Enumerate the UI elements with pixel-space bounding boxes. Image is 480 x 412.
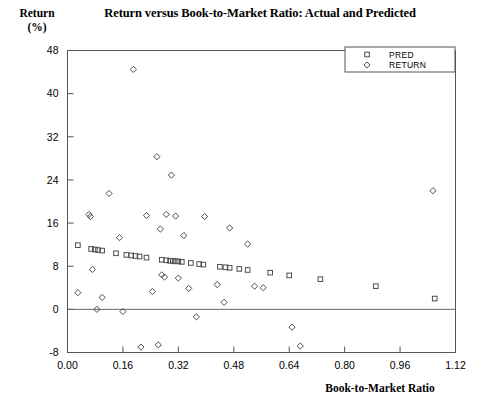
data-point — [287, 273, 292, 278]
data-point — [432, 296, 437, 301]
data-point — [172, 213, 178, 219]
y-tick-label: -8 — [49, 346, 58, 358]
x-tick-label: 0.48 — [224, 359, 245, 371]
data-point — [297, 343, 303, 349]
x-tick-label: 0.32 — [168, 359, 189, 371]
series-return — [75, 66, 436, 350]
data-point — [251, 283, 257, 289]
series-pred — [76, 243, 437, 301]
y-tick-label: 0 — [53, 303, 59, 315]
data-point — [163, 211, 169, 217]
chart-figure: Return versus Book-to-Market Ratio: Actu… — [0, 0, 480, 412]
data-point — [181, 232, 187, 238]
data-point — [175, 275, 181, 281]
data-point — [149, 288, 155, 294]
data-point — [221, 299, 227, 305]
data-point — [289, 324, 295, 330]
data-point — [227, 225, 233, 231]
x-tick-label: 0.64 — [279, 359, 300, 371]
data-point — [202, 214, 208, 220]
data-point — [89, 266, 95, 272]
data-point — [75, 290, 81, 296]
data-point — [130, 66, 136, 72]
data-point — [189, 261, 194, 266]
x-tick-label: 0.16 — [113, 359, 134, 371]
data-point — [76, 243, 81, 248]
data-point — [106, 190, 112, 196]
data-point — [268, 270, 273, 275]
data-point — [245, 268, 250, 273]
plot-frame — [68, 51, 456, 353]
data-point — [245, 241, 251, 247]
data-point — [193, 314, 199, 320]
x-tick-label: 0.96 — [390, 359, 411, 371]
y-tick-label: 40 — [47, 87, 59, 99]
data-point — [157, 226, 163, 232]
x-tick-label: 0.00 — [57, 359, 78, 371]
y-tick-label: 32 — [47, 131, 59, 143]
data-point — [374, 284, 379, 289]
legend-label-pred: PRED — [389, 50, 414, 60]
legend-label-return: RETURN — [389, 60, 426, 70]
x-tick-label: 1.12 — [445, 359, 466, 371]
y-tick-label: 48 — [47, 44, 59, 56]
scatter-plot: 484032241680-80.000.160.320.480.640.800.… — [0, 0, 480, 412]
data-point — [237, 267, 242, 272]
y-tick-label: 24 — [47, 174, 59, 186]
data-point — [186, 285, 192, 291]
data-point — [318, 277, 323, 282]
data-point — [155, 342, 161, 348]
data-point — [430, 188, 436, 194]
data-point — [114, 251, 119, 256]
data-point — [168, 172, 174, 178]
data-point — [159, 257, 164, 262]
x-tick-label: 0.80 — [334, 359, 355, 371]
data-point — [218, 264, 223, 269]
data-point — [214, 281, 220, 287]
data-point — [99, 294, 105, 300]
data-point — [154, 154, 160, 160]
data-point — [143, 212, 149, 218]
data-point — [138, 344, 144, 350]
data-point — [144, 255, 149, 260]
data-point — [124, 253, 129, 258]
data-point — [116, 235, 122, 241]
y-tick-label: 8 — [53, 260, 59, 272]
data-point — [260, 285, 266, 291]
y-tick-label: 16 — [47, 217, 59, 229]
